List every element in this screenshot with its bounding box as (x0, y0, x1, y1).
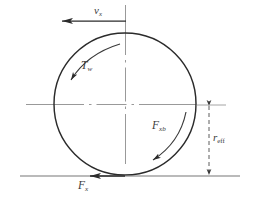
effective-radius-subscript: eff (217, 137, 224, 144)
diagram-canvas (0, 0, 268, 205)
brake-force-label: Fxb (152, 120, 166, 133)
velocity-subscript: x (99, 10, 102, 17)
ground-force-subscript: x (85, 185, 88, 193)
effective-radius-label: reff (213, 132, 225, 145)
velocity-label: vx (94, 5, 102, 18)
wheel-dynamics-figure: vx Tw Fxb Fx reff (0, 0, 268, 205)
torque-arc-arrow (71, 44, 120, 80)
ground-force-symbol: F (78, 179, 85, 191)
wheel-torque-subscript: w (87, 65, 92, 73)
ground-force-label: Fx (78, 180, 88, 193)
wheel-circle (54, 33, 196, 175)
brake-force-symbol: F (152, 119, 159, 131)
brake-force-subscript: xb (159, 125, 166, 133)
wheel-torque-label: Tw (81, 60, 92, 73)
